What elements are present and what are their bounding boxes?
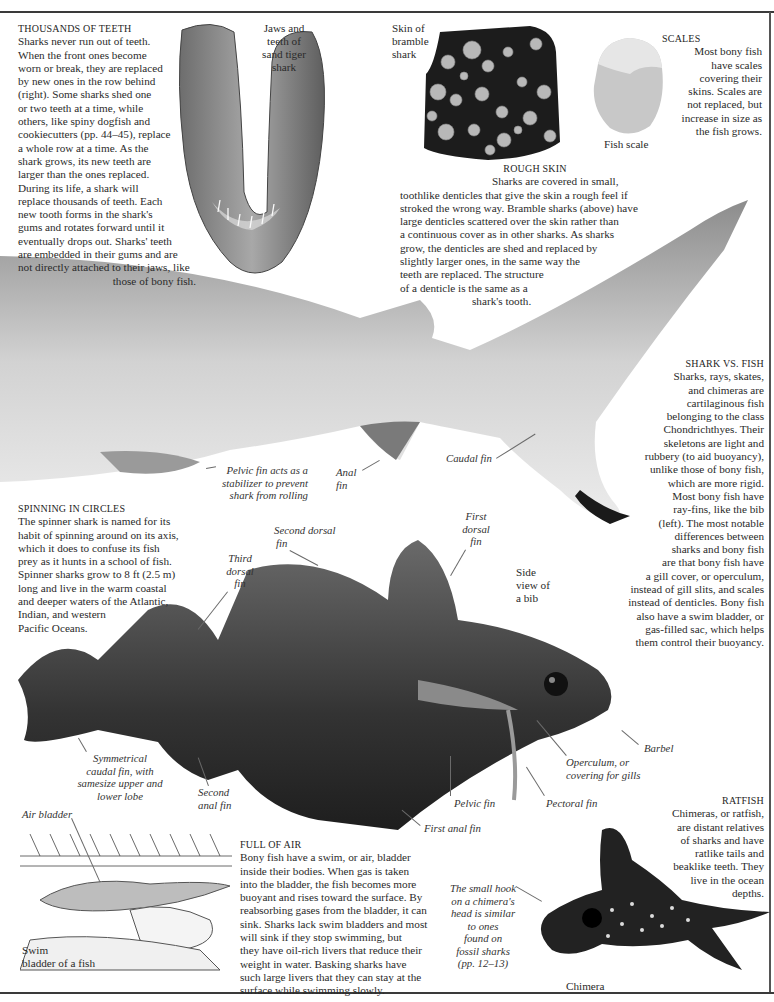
- text-line: Sharks never run out of teeth.: [18, 35, 196, 48]
- section-body: Sharks never run out of teeth.When the f…: [18, 35, 196, 288]
- text-line: the fish grows.: [654, 125, 762, 138]
- text-line: habit of spinning around on its axis,: [18, 529, 218, 542]
- text-line: The spinner shark is named for its: [18, 515, 218, 528]
- text-line: gas-filled sac, which helps: [604, 623, 764, 636]
- text-line: Second: [198, 786, 231, 799]
- text-line: and deeper waters of the Atlantic,: [18, 595, 218, 608]
- text-line: are that bony fish have: [604, 556, 764, 569]
- label-operculum: Operculum, orcovering for gills: [566, 756, 640, 781]
- text-line: instead of denticles. Bony fish: [604, 596, 764, 609]
- text-line: ratlike tails and: [660, 847, 764, 860]
- section-shark-vs-fish: SHARK VS. FISH Sharks, rays, skates,and …: [604, 357, 764, 650]
- text-line: sand tiger: [254, 48, 314, 61]
- text-line: to ones: [444, 920, 522, 933]
- label-third-dorsal-fin: Thirddorsalfin: [222, 552, 258, 590]
- text-line: Most bony fish: [654, 45, 762, 58]
- label-second-dorsal-fin: Second dorsalfin: [274, 524, 335, 549]
- caption-bib: Sideview ofa bib: [516, 566, 556, 605]
- text-line: fin: [456, 535, 496, 548]
- text-line: they have oil-rich livers that reduce th…: [240, 944, 450, 957]
- section-body: Sharks are covered in small,toothlike de…: [400, 175, 650, 308]
- text-line: into the bladder, the fish becomes more: [240, 878, 450, 891]
- text-line: dorsal: [456, 523, 496, 536]
- text-line: large denticles scattered over the skin …: [400, 215, 650, 228]
- text-line: which are more rigid.: [604, 477, 764, 490]
- text-line: will sink if they stop swimming, but: [240, 931, 450, 944]
- text-line: Chondrichthyes. Their: [604, 423, 764, 436]
- text-line: and chimeras are: [604, 384, 764, 397]
- text-line: (right). Some sharks shed one: [18, 88, 196, 101]
- text-line: weight in water. Basking sharks have: [240, 958, 450, 971]
- text-line: view of: [516, 579, 556, 592]
- text-line: live in the ocean: [660, 874, 764, 887]
- text-line: Sharks are covered in small,: [400, 175, 650, 188]
- text-line: Bony fish have a swim, or air, bladder: [240, 851, 450, 864]
- text-line: shark grows, its new teeth are: [18, 155, 196, 168]
- section-scales: SCALES Most bony fishhave scalescovering…: [654, 32, 762, 138]
- text-line: long and live in the warm coastal: [18, 582, 218, 595]
- text-line: are distant relatives: [660, 821, 764, 834]
- text-line: shark's tooth.: [400, 295, 650, 308]
- text-line: beaklike teeth. They: [660, 860, 764, 873]
- text-line: Operculum, or: [566, 756, 640, 769]
- text-line: of sharks and have: [660, 834, 764, 847]
- text-line: (left). The most notable: [604, 517, 764, 530]
- text-line: cartilaginous fish: [604, 397, 764, 410]
- text-line: skeletons are light and: [604, 437, 764, 450]
- label-chimera-hook: The small hookon a chimera'shead is simi…: [444, 882, 522, 970]
- text-line: worn or break, they are replaced: [18, 62, 196, 75]
- text-line: Anal: [336, 466, 356, 479]
- text-line: others, like spiny dogfish and: [18, 115, 196, 128]
- text-line: fin: [336, 479, 356, 492]
- text-line: First: [456, 510, 496, 523]
- caption-swim-bladder: Swimbladder of a fish: [22, 944, 142, 970]
- text-line: Third: [222, 552, 258, 565]
- text-line: slightly larger ones, in the same way th…: [400, 255, 650, 268]
- leader-line: [450, 756, 451, 796]
- text-line: reabsorbing gases from the bladder, it c…: [240, 904, 450, 917]
- text-line: buoyant and rises toward the surface. By: [240, 891, 450, 904]
- caption-jaws: Jaws andteeth ofsand tigershark: [254, 22, 314, 74]
- text-line: stroked the wrong way. Bramble sharks (a…: [400, 202, 650, 215]
- label-pectoral-fin: Pectoral fin: [546, 797, 597, 810]
- text-line: those of bony fish.: [18, 275, 196, 288]
- text-line: such large livers that they can stay at …: [240, 971, 450, 984]
- label-barbel: Barbel: [644, 742, 673, 755]
- text-line: eventually drops out. Sharks' teeth: [18, 235, 196, 248]
- label-first-dorsal-fin: Firstdorsalfin: [456, 510, 496, 548]
- text-line: dorsal: [222, 565, 258, 578]
- text-line: not directly attached to their jaws, lik…: [18, 261, 196, 274]
- text-line: a bib: [516, 592, 556, 605]
- text-line: shark: [254, 61, 314, 74]
- text-line: of a denticle is the same as a: [400, 282, 650, 295]
- text-line: depths.: [660, 887, 764, 900]
- text-line: Indian, and western: [18, 608, 218, 621]
- section-ratfish: RATFISH Chimeras, or ratfish,are distant…: [660, 794, 764, 900]
- label-caudal-fin: Caudal fin: [446, 452, 492, 465]
- text-line: bladder of a fish: [22, 957, 142, 970]
- text-line: head is similar: [444, 907, 522, 920]
- section-heading: SCALES: [654, 32, 762, 45]
- text-line: When the front ones become: [18, 49, 196, 62]
- text-line: not replaced, but: [654, 98, 762, 111]
- text-line: found on: [444, 932, 522, 945]
- text-line: a continuous cover as in other sharks. A…: [400, 228, 650, 241]
- section-heading: SPINNING IN CIRCLES: [18, 502, 218, 515]
- label-air-bladder: Air bladder: [22, 808, 72, 821]
- section-body: The spinner shark is named for itshabit …: [18, 515, 218, 635]
- text-line: stabilizer to prevent: [196, 477, 308, 490]
- text-line: differences between: [604, 530, 764, 543]
- text-line: Spinner sharks grow to 8 ft (2.5 m): [18, 568, 218, 581]
- text-line: gums and rotates forward until it: [18, 221, 196, 234]
- section-thousands-of-teeth: THOUSANDS OF TEETH Sharks never run out …: [18, 22, 196, 288]
- section-spinning-in-circles: SPINNING IN CIRCLES The spinner shark is…: [18, 502, 218, 635]
- label-symmetrical-caudal-fin: Symmetricalcaudal fin, withsamesize uppe…: [72, 752, 168, 802]
- section-heading: THOUSANDS OF TEETH: [18, 22, 196, 35]
- label-second-anal-fin: Secondanal fin: [198, 786, 231, 811]
- text-line: increase in size as: [654, 112, 762, 125]
- text-line: samesize upper and: [72, 777, 168, 790]
- text-line: The small hook: [444, 882, 522, 895]
- section-body: Chimeras, or ratfish,are distant relativ…: [660, 807, 764, 900]
- section-body: Bony fish have a swim, or air, bladderin…: [240, 851, 450, 997]
- text-line: Side: [516, 566, 556, 579]
